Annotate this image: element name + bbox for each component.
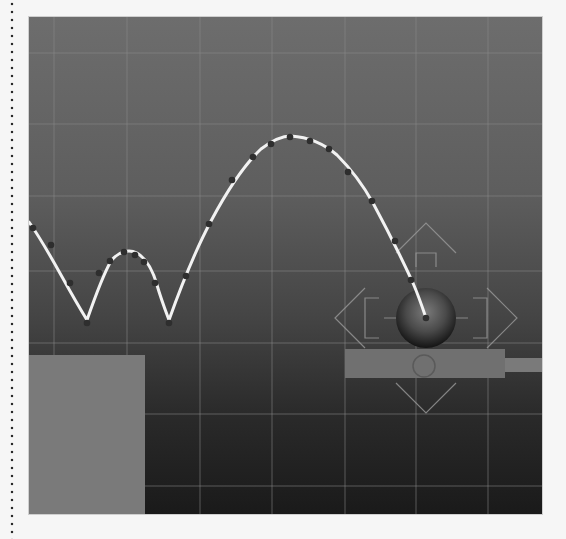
keyframe-dot[interactable] [392,238,399,245]
keyframe-dot[interactable] [67,280,74,287]
motion-trail[interactable] [29,136,426,320]
keyframe-dot[interactable] [84,320,91,327]
keyframe-dot[interactable] [268,141,275,148]
keyframe-dot[interactable] [48,242,55,249]
keyframe-dot[interactable] [96,270,103,277]
dotted-border [10,0,14,539]
keyframe-dot[interactable] [132,252,139,259]
keyframe-dot[interactable] [183,273,190,280]
viewport-canvas[interactable] [29,17,542,514]
keyframe-dot[interactable] [166,320,173,327]
ground-block[interactable] [29,355,145,514]
keyframe-dot[interactable] [229,177,236,184]
keyframe-dot[interactable] [206,221,213,228]
keyframe-dot[interactable] [30,225,37,232]
keyframe-dot[interactable] [345,169,352,176]
platform[interactable] [345,349,505,378]
keyframe-dot[interactable] [141,259,148,266]
keyframe-dot[interactable] [423,315,430,322]
page [0,0,566,539]
keyframe-dot[interactable] [107,258,114,265]
keyframe-dot[interactable] [152,280,159,287]
3d-animation-viewport[interactable] [29,17,542,514]
keyframe-dot[interactable] [287,134,294,141]
keyframe-dot[interactable] [307,138,314,145]
keyframe-dot[interactable] [408,277,415,284]
keyframe-dot[interactable] [121,249,128,256]
keyframe-dot[interactable] [369,198,376,205]
platform-stub[interactable] [505,358,542,372]
keyframe-dot[interactable] [326,146,333,153]
keyframe-dot[interactable] [250,154,257,161]
